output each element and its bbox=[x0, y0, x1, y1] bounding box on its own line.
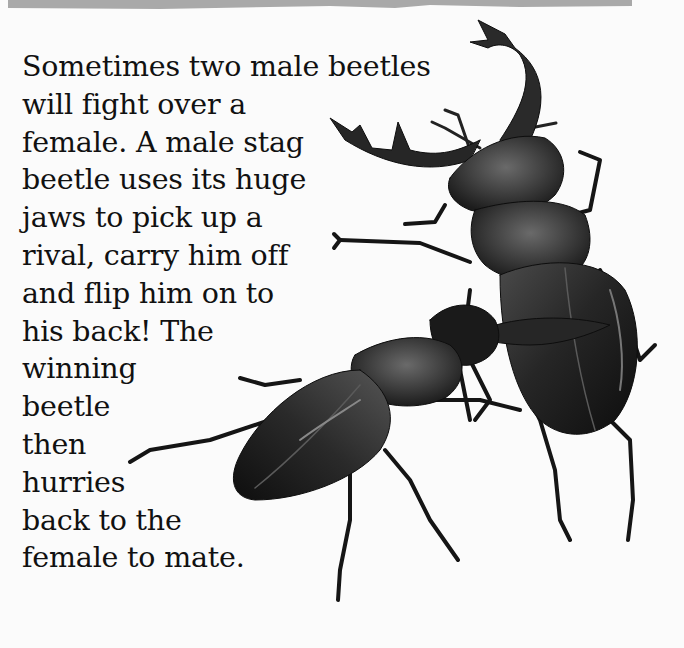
text-line: back to the bbox=[22, 502, 431, 540]
text-line: female. A male stag bbox=[22, 124, 431, 162]
text-line: winning bbox=[22, 350, 431, 388]
text-line: female to mate. bbox=[22, 539, 431, 577]
text-line: beetle uses its huge bbox=[22, 161, 431, 199]
text-line: and flip him on to bbox=[22, 275, 431, 313]
text-line: then bbox=[22, 426, 431, 464]
text-line: beetle bbox=[22, 388, 431, 426]
body-paragraph: Sometimes two male beetles will fight ov… bbox=[22, 48, 431, 577]
text-line: hurries bbox=[22, 464, 431, 502]
text-line: Sometimes two male beetles bbox=[22, 48, 431, 86]
winning-beetle-right-jaw bbox=[470, 20, 541, 150]
text-line: rival, carry him off bbox=[22, 237, 431, 275]
text-line: jaws to pick up a bbox=[22, 199, 431, 237]
text-line: will fight over a bbox=[22, 86, 431, 124]
text-line: his back! The bbox=[22, 313, 431, 351]
